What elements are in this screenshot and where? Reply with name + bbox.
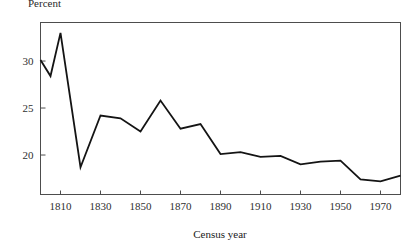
x-axis-ticks [61, 191, 381, 195]
svg-text:25: 25 [23, 102, 35, 114]
x-axis-title: Census year [193, 228, 247, 240]
svg-text:30: 30 [23, 55, 35, 67]
data-series-line [41, 33, 401, 182]
svg-text:1950: 1950 [330, 200, 353, 212]
plot-frame [41, 23, 401, 195]
svg-text:1810: 1810 [50, 200, 73, 212]
svg-text:1930: 1930 [290, 200, 313, 212]
svg-text:1890: 1890 [210, 200, 233, 212]
chart-figure: Percent 18101830185018701890191019301950… [0, 0, 419, 244]
svg-text:1830: 1830 [90, 200, 113, 212]
y-axis-ticks [41, 61, 46, 155]
line-chart-plot: 181018301850187018901910193019501970 202… [0, 0, 419, 244]
svg-text:20: 20 [23, 149, 35, 161]
svg-text:1910: 1910 [250, 200, 273, 212]
svg-text:1970: 1970 [370, 200, 393, 212]
y-axis-tick-labels: 202530 [23, 55, 35, 161]
x-axis-tick-labels: 181018301850187018901910193019501970 [50, 200, 393, 212]
svg-text:1870: 1870 [170, 200, 193, 212]
svg-text:1850: 1850 [130, 200, 153, 212]
